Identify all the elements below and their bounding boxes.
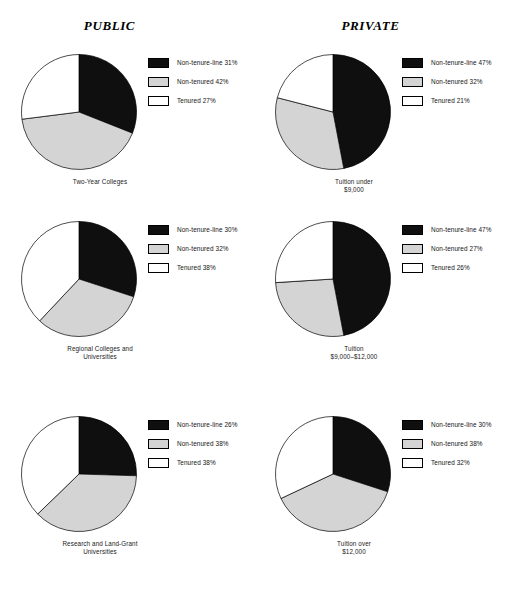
- legend-swatch-black: [402, 225, 423, 235]
- pie-legend: Non-tenure-line 30%Non-tenured 38%Tenure…: [402, 415, 492, 472]
- legend-swatch-gray: [402, 77, 423, 87]
- legend-item: Non-tenure-line 30%: [402, 415, 492, 434]
- pie-caption-line: Universities: [20, 353, 180, 361]
- pie-panel-private-tuition-under-9000: Tuition under$9,000Non-tenure-line 47%No…: [254, 40, 508, 212]
- legend-swatch-gray: [148, 244, 169, 254]
- pie-caption-line: Tuition over: [274, 540, 434, 548]
- legend-label: Non-tenure-line 26%: [177, 421, 238, 428]
- legend-label: Tenured 26%: [431, 264, 470, 271]
- pie-caption-line: $9,000–$12,000: [274, 353, 434, 361]
- legend-label: Non-tenured 38%: [431, 440, 483, 447]
- pie-caption-line: Universities: [20, 548, 180, 556]
- pie-legend: Non-tenure-line 47%Non-tenured 27%Tenure…: [402, 220, 492, 277]
- legend-swatch-black: [402, 58, 423, 68]
- legend-item: Non-tenure-line 47%: [402, 220, 492, 239]
- legend-item: Non-tenured 38%: [148, 434, 238, 453]
- panel-row: Research and Land-GrantUniversitiesNon-t…: [0, 407, 508, 599]
- legend-item: Tenured 38%: [148, 453, 238, 472]
- legend-item: Non-tenured 27%: [402, 239, 492, 258]
- pie-slice-non-tenure-line: [333, 55, 390, 169]
- legend-item: Tenured 21%: [402, 91, 492, 110]
- legend-item: Non-tenure-line 31%: [148, 53, 238, 72]
- panel-row: Regional Colleges andUniversitiesNon-ten…: [0, 212, 508, 407]
- column-headings: PUBLIC PRIVATE: [0, 18, 508, 40]
- pie-caption-line: Regional Colleges and: [20, 345, 180, 353]
- legend-item: Tenured 32%: [402, 453, 492, 472]
- pie-panel-private-tuition-over-12000: Tuition over$12,000Non-tenure-line 30%No…: [254, 407, 508, 599]
- legend-item: Non-tenure-line 26%: [148, 415, 238, 434]
- legend-swatch-white: [148, 96, 169, 106]
- legend-swatch-gray: [148, 77, 169, 87]
- legend-label: Non-tenure-line 47%: [431, 226, 492, 233]
- pie-chart-figure: { "figure": { "columns": [ { "id": "publ…: [0, 0, 508, 599]
- pie-graphic: [274, 415, 392, 533]
- legend-item: Tenured 27%: [148, 91, 238, 110]
- legend-item: Non-tenured 32%: [148, 239, 238, 258]
- pie-caption-line: $9,000: [274, 186, 434, 194]
- legend-swatch-white: [402, 263, 423, 273]
- legend-swatch-black: [402, 420, 423, 430]
- legend-swatch-white: [402, 458, 423, 468]
- pie-panel-public-two-year: Two-Year CollegesNon-tenure-line 31%Non-…: [0, 40, 254, 212]
- pie-slice-non-tenure-line: [79, 417, 137, 476]
- pie-caption: Two-Year Colleges: [20, 178, 180, 186]
- legend-label: Tenured 38%: [177, 459, 216, 466]
- legend-item: Tenured 26%: [402, 258, 492, 277]
- pie-panel-public-research-land-grant: Research and Land-GrantUniversitiesNon-t…: [0, 407, 254, 599]
- pie-legend: Non-tenure-line 30%Non-tenured 32%Tenure…: [148, 220, 238, 277]
- legend-label: Non-tenure-line 30%: [177, 226, 238, 233]
- pie-caption: Tuition under$9,000: [274, 178, 434, 195]
- pie-slice-non-tenured: [276, 279, 344, 337]
- legend-swatch-white: [402, 96, 423, 106]
- legend-label: Non-tenure-line 47%: [431, 59, 492, 66]
- legend-label: Non-tenured 32%: [177, 245, 229, 252]
- legend-swatch-white: [148, 458, 169, 468]
- pie-legend: Non-tenure-line 26%Non-tenured 38%Tenure…: [148, 415, 238, 472]
- legend-label: Non-tenured 27%: [431, 245, 483, 252]
- legend-label: Non-tenured 32%: [431, 78, 483, 85]
- legend-label: Tenured 21%: [431, 97, 470, 104]
- pie-legend: Non-tenure-line 31%Non-tenured 42%Tenure…: [148, 53, 238, 110]
- pie-graphic: [20, 220, 138, 338]
- pie-graphic: [274, 220, 392, 338]
- legend-item: Non-tenure-line 30%: [148, 220, 238, 239]
- legend-swatch-black: [148, 58, 169, 68]
- pie-caption: Tuition over$12,000: [274, 540, 434, 557]
- legend-label: Tenured 27%: [177, 97, 216, 104]
- pie-panel-public-regional: Regional Colleges andUniversitiesNon-ten…: [0, 212, 254, 407]
- pie-caption: Research and Land-GrantUniversities: [20, 540, 180, 557]
- legend-item: Non-tenure-line 47%: [402, 53, 492, 72]
- pie-graphic: [20, 415, 138, 533]
- pie-caption-line: $12,000: [274, 548, 434, 556]
- pie-caption-line: Tuition: [274, 345, 434, 353]
- pie-caption: Tuition$9,000–$12,000: [274, 345, 434, 362]
- pie-caption-line: Tuition under: [274, 178, 434, 186]
- column-heading-public: PUBLIC: [0, 18, 261, 40]
- pie-caption-line: Two-Year Colleges: [20, 178, 180, 186]
- legend-swatch-gray: [402, 439, 423, 449]
- legend-label: Non-tenure-line 31%: [177, 59, 238, 66]
- legend-item: Tenured 38%: [148, 258, 238, 277]
- pie-slice-tenured: [21, 55, 79, 120]
- pie-graphic: [274, 53, 392, 171]
- legend-swatch-black: [148, 420, 169, 430]
- legend-label: Non-tenured 42%: [177, 78, 229, 85]
- legend-item: Non-tenured 38%: [402, 434, 492, 453]
- legend-label: Tenured 38%: [177, 264, 216, 271]
- legend-item: Non-tenured 32%: [402, 72, 492, 91]
- pie-slice-tenured: [276, 222, 334, 283]
- legend-swatch-white: [148, 263, 169, 273]
- column-heading-private: PRIVATE: [261, 18, 508, 40]
- pie-legend: Non-tenure-line 47%Non-tenured 32%Tenure…: [402, 53, 492, 110]
- panel-row: Two-Year CollegesNon-tenure-line 31%Non-…: [0, 40, 508, 212]
- pie-panels-grid: Two-Year CollegesNon-tenure-line 31%Non-…: [0, 40, 508, 599]
- legend-label: Non-tenure-line 30%: [431, 421, 492, 428]
- legend-swatch-gray: [402, 244, 423, 254]
- legend-swatch-gray: [148, 439, 169, 449]
- legend-swatch-black: [148, 225, 169, 235]
- pie-graphic: [20, 53, 138, 171]
- pie-caption: Regional Colleges andUniversities: [20, 345, 180, 362]
- pie-slice-non-tenure-line: [333, 222, 390, 336]
- pie-caption-line: Research and Land-Grant: [20, 540, 180, 548]
- pie-panel-private-tuition-9000-12000: Tuition$9,000–$12,000Non-tenure-line 47%…: [254, 212, 508, 407]
